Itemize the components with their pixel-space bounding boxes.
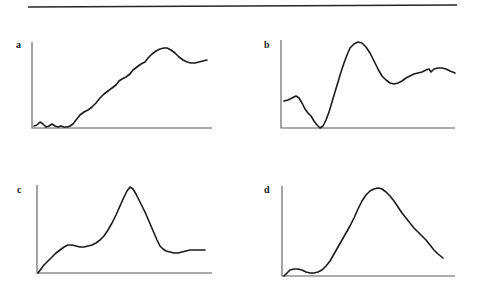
figure-canvas: [0, 0, 477, 293]
panel-label-b: b: [264, 40, 270, 50]
panel-a: [32, 42, 212, 128]
panel-b: [281, 40, 455, 128]
panel-d-axes: [282, 186, 455, 276]
horizontal-rule: [28, 5, 457, 7]
panel-d: [282, 186, 455, 276]
panel-d-curve: [284, 188, 443, 276]
panel-label-d: d: [264, 185, 270, 195]
panel-c-curve: [38, 187, 205, 273]
panel-a-curve: [34, 48, 207, 127]
panel-c-axes: [37, 185, 212, 273]
panel-label-c: c: [17, 185, 21, 195]
figure-root: a b c d: [0, 0, 477, 293]
panel-b-axes: [281, 40, 455, 128]
panel-label-a: a: [16, 40, 21, 50]
panel-c: [37, 185, 212, 273]
panel-a-axes: [32, 42, 212, 128]
panel-b-curve: [284, 42, 455, 128]
